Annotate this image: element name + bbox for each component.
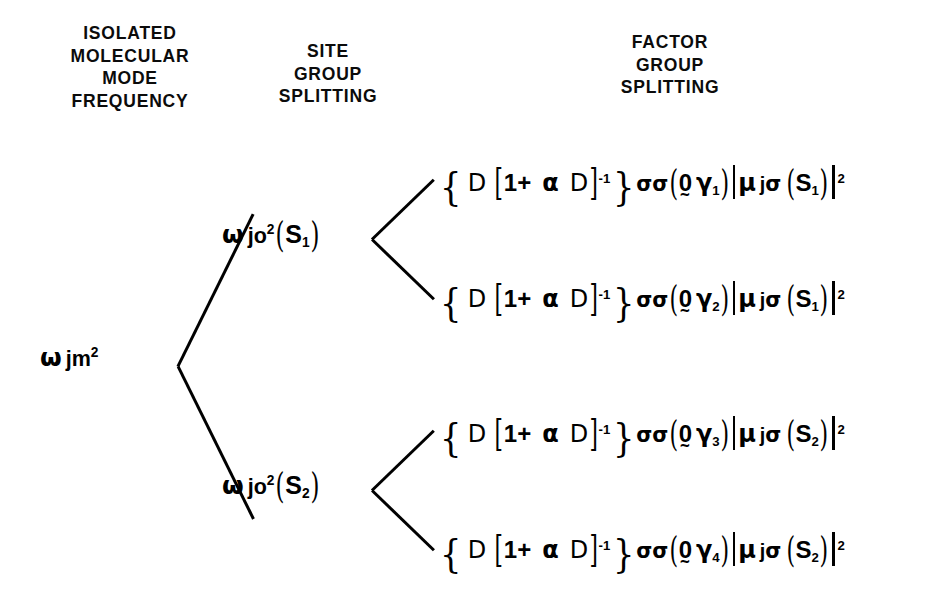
term4-paren-close: ) <box>720 533 729 568</box>
term2-exponent: -1 <box>599 287 611 302</box>
term4-bracket-open: [ <box>494 532 502 569</box>
term3-s: S <box>795 420 811 447</box>
root-subscript: jm <box>66 347 91 371</box>
term1-sigma-2: σ <box>652 172 668 196</box>
term1-brace-close: } <box>613 167 634 207</box>
term3-s-paren-close: ) <box>820 417 829 452</box>
leaf-factor-group-term-2: {D[1+αD]-1}σσ(0γ2)μjσ(S1)2 <box>438 281 845 322</box>
term4-modulus-bar-left <box>733 532 736 566</box>
term1-alpha: α <box>542 169 559 197</box>
term4-brace-close: } <box>613 534 634 574</box>
term2-modulus-bar-left <box>733 281 736 315</box>
site2-paren-open: ( <box>275 467 284 503</box>
term4-alpha: α <box>542 536 559 564</box>
term2-d-operator-2: D <box>570 287 588 311</box>
term3-gamma-subscript: 3 <box>712 434 719 449</box>
term1-zero-vector: 0 <box>679 171 692 195</box>
term1-sigma-1: σ <box>636 172 652 196</box>
term2-mu: μ <box>738 285 756 313</box>
term2-brace-open: { <box>440 283 461 323</box>
site2-arg-subscript: 2 <box>302 486 310 501</box>
term2-alpha: α <box>542 285 559 313</box>
term1-d-operator: D <box>468 171 486 195</box>
term2-d-operator: D <box>468 287 486 311</box>
term4-sigma-2: σ <box>652 539 668 563</box>
term4-one-plus: 1+ <box>504 536 531 563</box>
term3-bracket-close: ] <box>589 416 597 453</box>
term3-zero-vector: 0 <box>679 422 692 446</box>
branch-line-site1-lower <box>371 238 435 300</box>
term3-modulus-bar-left <box>733 416 736 450</box>
term4-s-paren-open: ( <box>786 533 795 568</box>
term4-bracket-close: ] <box>589 532 597 569</box>
figure-canvas: ISOLATED MOLECULAR MODE FREQUENCY SITE G… <box>0 0 938 609</box>
term4-exponent: -1 <box>599 538 611 553</box>
term1-one-plus: 1+ <box>504 169 531 196</box>
term1-brace-open: { <box>440 167 461 207</box>
term3-brace-open: { <box>440 418 461 458</box>
site2-omega: ω <box>222 471 244 500</box>
root-superscript: 2 <box>91 345 99 360</box>
term2-mu-sigma: σ <box>765 288 781 312</box>
term3-modulus-exponent: 2 <box>837 422 844 437</box>
site1-paren-open: ( <box>275 216 284 252</box>
term3-paren-open: ( <box>669 417 678 452</box>
term1-exponent: -1 <box>599 171 611 186</box>
term4-zero-vector: 0 <box>679 538 692 562</box>
term3-one-plus: 1+ <box>504 420 531 447</box>
term2-bracket-close: ] <box>589 281 597 318</box>
site2-paren-close: ) <box>311 467 320 503</box>
site2-arg: S <box>285 471 302 499</box>
term2-s-paren-close: ) <box>820 282 829 317</box>
heading-factor-group-splitting: FACTOR GROUP SPLITTING <box>560 31 780 99</box>
node-site-group-s1: ωjo2(S1) <box>222 222 320 248</box>
term4-d-operator: D <box>468 538 486 562</box>
term1-paren-close: ) <box>720 166 729 201</box>
term2-s-subscript: 1 <box>811 299 818 314</box>
term1-d-operator-2: D <box>570 171 588 195</box>
branch-line-site1-upper <box>371 179 435 241</box>
term3-modulus-bar-right <box>832 416 835 450</box>
term2-modulus-bar-right <box>832 281 835 315</box>
term2-paren-open: ( <box>669 282 678 317</box>
term4-gamma-subscript: 4 <box>712 550 719 565</box>
heading-site-group-splitting: SITE GROUP SPLITTING <box>248 40 408 108</box>
site1-paren-close: ) <box>311 216 320 252</box>
term4-brace-open: { <box>440 534 461 574</box>
node-isolated-mode-frequency: ωjm2 <box>40 345 98 371</box>
term3-s-subscript: 2 <box>811 434 818 449</box>
node-site-group-s2: ωjo2(S2) <box>222 473 320 499</box>
term1-modulus-bar-left <box>733 165 736 199</box>
term3-sigma-2: σ <box>652 423 668 447</box>
term2-modulus-exponent: 2 <box>837 287 844 302</box>
term3-sigma-1: σ <box>636 423 652 447</box>
term3-alpha: α <box>542 420 559 448</box>
term1-s-subscript: 1 <box>811 183 818 198</box>
site1-arg: S <box>285 220 302 248</box>
term2-zero-vector: 0 <box>679 287 692 311</box>
term1-modulus-bar-right <box>832 165 835 199</box>
term3-exponent: -1 <box>599 422 611 437</box>
term2-gamma-subscript: 2 <box>712 299 719 314</box>
term3-mu-sigma: σ <box>765 423 781 447</box>
term2-bracket-open: [ <box>494 281 502 318</box>
leaf-factor-group-term-1: {D[1+αD]-1}σσ(0γ1)μjσ(S1)2 <box>438 165 845 206</box>
term2-gamma: γ <box>696 285 712 313</box>
term1-s-paren-close: ) <box>820 166 829 201</box>
term3-s-paren-open: ( <box>786 417 795 452</box>
term1-paren-open: ( <box>669 166 678 201</box>
term4-s-subscript: 2 <box>811 550 818 565</box>
term1-gamma: γ <box>696 169 712 197</box>
term1-mu: μ <box>738 169 756 197</box>
site1-arg-subscript: 1 <box>302 235 310 250</box>
term1-bracket-open: [ <box>494 165 502 202</box>
term2-brace-close: } <box>613 283 634 323</box>
term2-one-plus: 1+ <box>504 285 531 312</box>
term4-paren-open: ( <box>669 533 678 568</box>
term4-modulus-exponent: 2 <box>837 538 844 553</box>
term2-sigma-2: σ <box>652 288 668 312</box>
branch-line-site2-lower <box>371 489 435 551</box>
term4-gamma: γ <box>696 536 712 564</box>
term1-s-paren-open: ( <box>786 166 795 201</box>
branch-line-site2-upper <box>371 430 435 492</box>
